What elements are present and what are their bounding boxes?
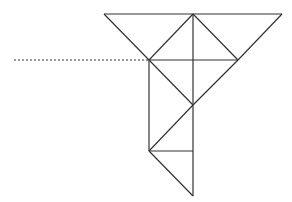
- segment-DG: [149, 60, 193, 105]
- segment-FG: [193, 60, 238, 105]
- segment-CF: [238, 14, 282, 60]
- segment-HJ: [149, 151, 193, 196]
- triangle-segments: [104, 14, 282, 196]
- geometric-diagram: [0, 0, 292, 202]
- segment-BD: [149, 14, 193, 60]
- segment-BF: [193, 14, 238, 60]
- segment-AD: [104, 14, 149, 60]
- segment-GH: [149, 105, 193, 151]
